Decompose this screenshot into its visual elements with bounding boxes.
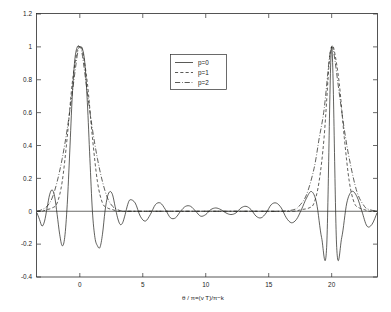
x-tick-label: 10 (202, 281, 210, 288)
x-tick-label: 20 (328, 281, 336, 288)
y-tick-label: 0.4 (23, 142, 32, 149)
legend-label-p0: p=0 (198, 59, 209, 67)
y-tick-label: 1 (28, 43, 32, 50)
legend-label-p1: p=1 (198, 69, 209, 77)
x-axis-label: θ / π=(v T)/π−k (182, 294, 225, 301)
x-tick-label: 0 (78, 281, 82, 288)
y-tick-label: -0.2 (21, 240, 32, 247)
x-tick-label: 15 (265, 281, 273, 288)
y-tick-label: 1.2 (23, 10, 32, 17)
x-tick-label: 5 (141, 281, 145, 288)
chart-legend[interactable]: p=0 p=1 p=2 (171, 55, 227, 90)
legend-label-p2: p=2 (198, 79, 209, 87)
y-tick-label: 0.6 (23, 109, 32, 116)
figure-canvas: -0.4-0.200.20.40.60.811.2 05101520 θ / π… (0, 0, 391, 312)
chart-plot: -0.4-0.200.20.40.60.811.2 05101520 θ / π… (0, 0, 391, 312)
y-tick-label: 0 (28, 208, 32, 215)
y-tick-label: 0.8 (23, 76, 32, 83)
y-tick-label: -0.4 (21, 273, 32, 280)
y-tick-label: 0.2 (23, 175, 32, 182)
